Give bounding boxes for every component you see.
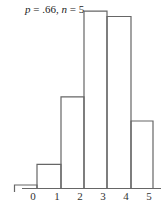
bar-5 xyxy=(131,121,153,189)
x-tick-label-3: 3 xyxy=(97,190,109,202)
bar-1 xyxy=(37,164,61,188)
bar-2 xyxy=(61,97,84,189)
bar-3 xyxy=(84,11,107,188)
plot-area xyxy=(0,0,168,216)
x-tick-label-0: 0 xyxy=(27,190,39,202)
x-tick-label-4: 4 xyxy=(120,190,132,202)
x-tick-label-2: 2 xyxy=(74,190,86,202)
bar-4 xyxy=(107,16,131,188)
x-tick-label-1: 1 xyxy=(51,190,63,202)
x-tick-label-5: 5 xyxy=(143,190,155,202)
binomial-histogram: p = .66, n = 5 012345 xyxy=(0,0,168,216)
